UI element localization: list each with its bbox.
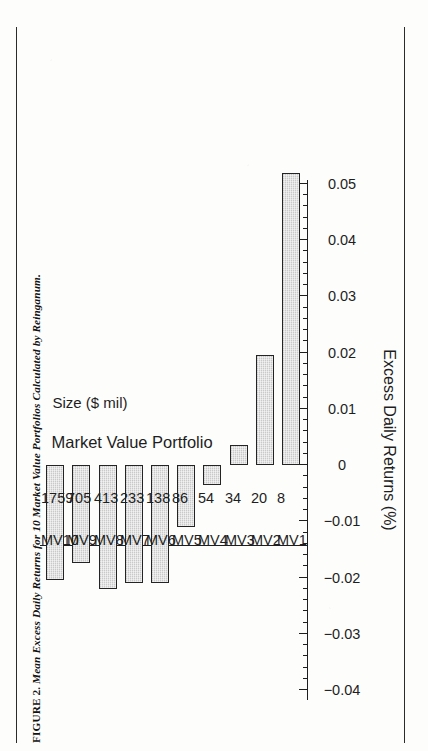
journal-page: FIGURE 2. Mean Excess Daily Returns for … [0,0,428,751]
value-axis-minor-tick [303,588,308,589]
value-axis-tick-label: 0.01 [314,386,370,432]
value-axis-minor-tick [303,250,308,251]
chart-area: 0.050.040.030.020.010−0.01−0.02−0.03−0.0… [40,140,370,700]
value-axis-minor-tick [303,374,308,375]
value-axis-minor-tick [303,554,308,555]
value-axis-major-tick [299,295,308,296]
value-axis-major-tick [299,633,308,634]
value-axis-tick-label: −0.04 [314,667,370,713]
value-axis-minor-tick [303,475,308,476]
value-axis-minor-tick [303,217,308,218]
value-axis-tick-label: 0.02 [314,330,370,376]
value-axis-minor-tick [303,206,308,207]
value-axis-minor-tick [303,610,308,611]
value-axis-minor-tick [303,363,308,364]
page-rule-left [16,27,17,743]
value-axis-minor-tick [303,262,308,263]
value-axis-minor-tick [303,622,308,623]
value-axis-minor-tick [303,194,308,195]
value-axis-minor-tick [303,385,308,386]
bar-chart: 0.050.040.030.020.010−0.01−0.02−0.03−0.0… [40,140,370,700]
value-axis-minor-tick [303,644,308,645]
value-axis-tick-label: 0 [314,442,370,488]
value-axis-tick-label: −0.02 [314,555,370,601]
value-axis-minor-tick [303,453,308,454]
value-axis-minor-tick [303,667,308,668]
value-axis-minor-tick [303,340,308,341]
value-axis-minor-tick [303,273,308,274]
value-axis-minor-tick [303,329,308,330]
value-axis-major-tick [299,239,308,240]
value-axis-tick-label: 0.03 [314,273,370,319]
value-axis-tick-label: 0.05 [314,161,370,207]
value-axis-minor-tick [303,509,308,510]
value-axis-minor-tick [303,487,308,488]
value-axis-major-tick [299,352,308,353]
value-axis-title: Excess Daily Returns (%) [380,180,404,700]
value-axis-minor-tick [303,318,308,319]
page-rule-right [404,27,405,743]
value-axis-minor-tick [303,397,308,398]
value-axis-minor-tick [303,228,308,229]
value-axis-major-tick [299,183,308,184]
value-axis-major-tick [299,577,308,578]
value-axis-major-tick [299,408,308,409]
value-axis-minor-tick [303,442,308,443]
value-axis-minor-tick [303,565,308,566]
size-row-title: Size ($ mil) [56,242,80,402]
value-axis-tick-label: −0.03 [314,611,370,657]
value-axis-minor-tick [303,307,308,308]
value-axis-tick-label: 0.04 [314,217,370,263]
value-axis-minor-tick [303,678,308,679]
value-axis-minor-tick [303,655,308,656]
bar [282,173,300,465]
value-axis-minor-tick [303,419,308,420]
value-axis-minor-tick [303,599,308,600]
value-axis-minor-tick [303,430,308,431]
value-axis-major-tick [299,689,308,690]
value-axis-minor-tick [303,284,308,285]
